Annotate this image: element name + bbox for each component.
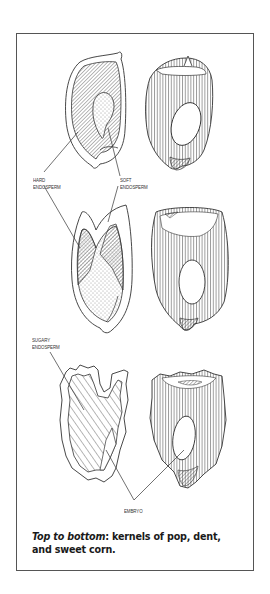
embryo-label: EMBRYO [124,508,143,515]
popcorn-exterior [146,56,213,170]
corn-kernels-illustration [0,0,270,594]
sweet-cross-section [60,365,128,482]
figure-caption: Top to bottom: kernels of pop, dent, and… [32,530,242,556]
soft-endosperm-label: SOFT ENDOSPERM [120,177,148,190]
sugary-endosperm-label: SUGARY ENDOSPERM [32,337,60,350]
hard-endosperm-label: HARD ENDOSPERM [33,177,61,190]
hard-endosperm-leader-line [44,132,78,172]
popcorn-cross-section [66,52,126,168]
dent-cross-section [71,205,132,333]
dent-exterior [152,208,229,331]
sweet-exterior [150,370,226,488]
caption-lead: Top to bottom [32,531,105,542]
hard-endosperm-leader-line-2 [44,186,80,248]
